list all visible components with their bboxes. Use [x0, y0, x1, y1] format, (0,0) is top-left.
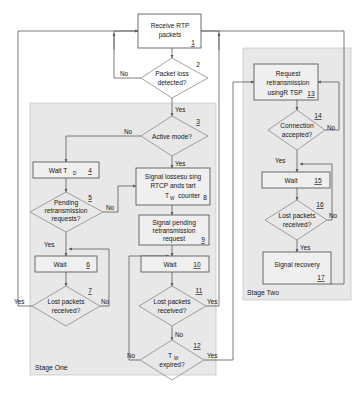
node-12-line-1: T: [168, 352, 172, 359]
node-2-line-1: Packet loss: [155, 70, 189, 77]
edge-label-2-yes: Yes: [175, 106, 185, 113]
node-2-line-2: detected?: [158, 79, 187, 86]
node-7-line-1: Lost packets: [47, 298, 85, 306]
node-4-number: 4: [88, 167, 92, 174]
node-5-line-2: retransmission: [45, 207, 88, 214]
node-13-line-2: retransmission: [267, 79, 310, 86]
edge-label-16-yes: Yes: [300, 244, 310, 251]
node-14-line-2: accepted?: [282, 131, 313, 139]
node-10-line-1: Wait: [164, 261, 177, 268]
node-11-line-2: received?: [158, 307, 187, 314]
node-15-line-1: Wait: [285, 177, 298, 184]
node-1-line-2: packets: [159, 31, 182, 39]
node-17-number: 17: [317, 274, 325, 281]
edge-label-11-yes: Yes: [207, 298, 217, 305]
node-receive-rtp-packets[interactable]: Receive RTP packets 1: [138, 14, 201, 48]
node-12-number: 12: [193, 342, 201, 349]
node-8-line-1: Signal lossesu sing: [145, 173, 202, 181]
node-2-number: 2: [196, 61, 200, 68]
node-packet-loss-detected[interactable]: Packet loss detected? 2: [141, 58, 208, 98]
node-signal-recovery[interactable]: Signal recovery 17: [263, 252, 331, 284]
edge-label-11-no: No: [175, 331, 184, 338]
node-17-line-1: Signal recovery: [274, 261, 320, 269]
node-8-line-4: counter: [178, 192, 201, 199]
node-5-line-1: Pending: [54, 199, 79, 207]
node-8-subscript: W: [170, 196, 175, 201]
node-3-line-1: Active mode?: [152, 133, 192, 140]
node-1-line-1: Receive RTP: [151, 22, 190, 29]
node-11-number: 11: [196, 287, 203, 294]
node-3-number: 3: [196, 118, 200, 125]
node-16-number: 16: [316, 201, 324, 208]
edge-label-16-no: No: [329, 212, 338, 219]
node-7-line-2: received?: [52, 307, 81, 314]
node-signal-pending-retransmission-request[interactable]: Signal pending retransmission request 9: [139, 215, 209, 245]
node-13-line-3: usingR TSP: [267, 89, 303, 97]
flowchart-canvas: Receive RTP packets 1 Packet loss detect…: [0, 0, 362, 405]
edge-label-2-no: No: [120, 70, 129, 77]
node-1-number: 1: [191, 39, 195, 46]
node-signal-losses-rtcp[interactable]: Signal lossesu sing RTCP ands tart T W c…: [136, 168, 210, 205]
edge-label-12-no: No: [127, 352, 136, 359]
node-wait-6[interactable]: Wait 6: [35, 256, 97, 272]
node-wait-td[interactable]: Wait T D 4: [33, 162, 99, 178]
node-4-line-1: Wait T: [49, 167, 68, 174]
node-9-line-3: request: [163, 235, 185, 243]
node-14-number: 14: [314, 112, 322, 119]
node-13-line-1: Request: [276, 70, 301, 78]
stage-two-label: Stage Two: [247, 289, 279, 297]
node-12-line-2: expired?: [159, 361, 185, 369]
node-8-number: 8: [203, 194, 207, 201]
edge-label-12-yes: Yes: [207, 352, 217, 359]
node-wait-10[interactable]: Wait 10: [141, 256, 209, 272]
edge-label-3-no: No: [124, 128, 133, 135]
node-15-number: 15: [314, 177, 322, 184]
edge-label-5-no: No: [106, 204, 115, 211]
node-13-number: 13: [307, 90, 315, 97]
edge-label-5-yes: Yes: [44, 241, 54, 248]
edge-label-7-no: No: [101, 298, 110, 305]
node-9-line-1: Signal pending: [152, 219, 196, 227]
node-5-line-3: requests?: [52, 215, 81, 223]
node-7-number: 7: [88, 287, 92, 294]
node-wait-15[interactable]: Wait 15: [262, 172, 330, 188]
node-9-line-2: retransmission: [153, 227, 196, 234]
node-16-line-2: received?: [283, 221, 312, 228]
node-8-line-3: T: [165, 192, 169, 199]
edge-label-14-yes: Yes: [275, 157, 285, 164]
edge-label-3-yes: Yes: [175, 160, 185, 167]
node-6-number: 6: [86, 261, 90, 268]
node-11-line-1: Lost packets: [153, 298, 191, 306]
edge-label-7-yes: Yes: [14, 298, 24, 305]
node-5-number: 5: [88, 194, 92, 201]
node-6-line-1: Wait: [54, 261, 67, 268]
stage-one-label: Stage One: [35, 364, 68, 372]
edge-label-14-no: No: [327, 124, 336, 131]
node-16-line-1: Lost packets: [278, 212, 316, 220]
node-14-line-1: Connection: [280, 122, 314, 129]
node-request-retransmission-rtsp[interactable]: Request retransmission usingR TSP 13: [254, 64, 318, 100]
node-10-number: 10: [193, 261, 201, 268]
node-9-number: 9: [201, 236, 205, 243]
node-8-line-2: RTCP ands tart: [150, 182, 195, 189]
